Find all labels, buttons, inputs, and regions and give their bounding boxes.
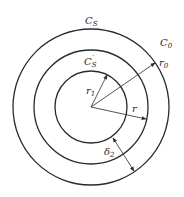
r-arrow (91, 107, 146, 119)
delta2-dimension-arrow (113, 138, 134, 171)
label-c0: C0 (160, 37, 173, 50)
label-delta2: δ2 (104, 146, 115, 159)
label-cs-prime: CS′ (84, 54, 97, 69)
concentric-circles-diagram: CS C0 CS′ r0 r1 r δ2 (0, 0, 184, 197)
label-r: r (132, 103, 138, 114)
label-r1: r1 (86, 85, 95, 98)
label-cs: CS (85, 15, 98, 28)
r0-arrow (91, 63, 155, 107)
label-r0: r0 (159, 57, 169, 70)
